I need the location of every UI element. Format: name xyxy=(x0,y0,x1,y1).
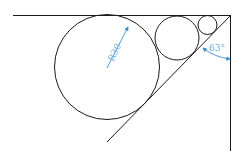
middle-circle xyxy=(155,16,199,60)
angle-label: 63° xyxy=(209,43,225,53)
diagonal-line xyxy=(107,16,231,143)
radius-label: R30 xyxy=(106,42,123,63)
geometry-diagram: R30 63° xyxy=(0,0,246,163)
small-circle xyxy=(198,16,217,35)
